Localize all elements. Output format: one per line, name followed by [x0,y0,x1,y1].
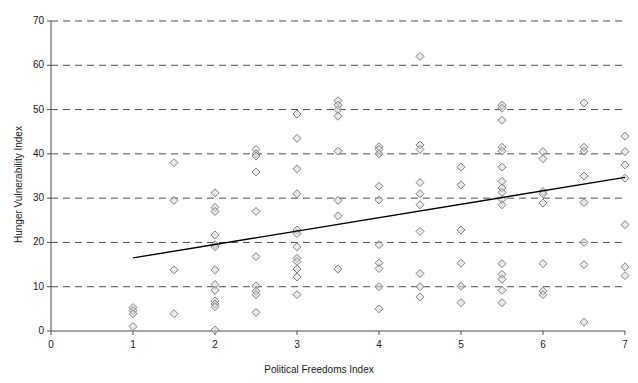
data-point-marker [498,163,506,171]
data-point-marker [416,190,424,198]
data-point-marker [457,299,465,307]
data-point-marker [129,323,137,331]
data-point-marker [211,286,219,294]
data-point-marker [416,179,424,187]
data-point-marker [293,291,301,299]
x-tick-label: 3 [294,340,300,350]
data-point-marker [293,265,301,273]
data-point-marker [416,201,424,209]
data-point-marker [457,163,465,171]
data-point-marker [252,253,260,261]
data-point-marker [293,273,301,281]
data-point-marker [580,261,588,269]
data-point-marker [539,155,547,163]
data-point-marker [621,148,629,156]
y-tick-label: 70 [20,16,44,26]
data-point-marker [252,308,260,316]
data-point-marker [211,326,219,334]
data-point-marker [416,269,424,277]
data-point-marker [580,318,588,326]
data-point-marker [457,259,465,267]
data-point-marker [498,260,506,268]
data-point-marker [375,265,383,273]
data-point-marker [539,199,547,207]
x-tick-label: 4 [376,340,382,350]
data-point-marker [498,116,506,124]
x-tick-label: 5 [458,340,464,350]
data-point-marker [621,221,629,229]
data-point-marker [211,266,219,274]
data-point-marker [375,305,383,313]
tickmarks-group [47,21,625,335]
data-point-marker [334,212,342,220]
data-point-marker [498,299,506,307]
data-point-marker [621,132,629,140]
data-point-marker [416,52,424,60]
data-point-marker [293,110,301,118]
data-point-marker [416,227,424,235]
data-point-marker [293,165,301,173]
data-point-marker [375,283,383,291]
y-axis-title: Hunger Vulnerability Index [13,126,24,243]
data-point-marker [621,263,629,271]
data-point-marker [293,134,301,142]
data-point-marker [580,99,588,107]
data-point-marker [375,241,383,249]
data-point-marker [580,199,588,207]
y-tick-label: 10 [20,282,44,292]
data-point-marker [211,231,219,239]
x-tick-label: 2 [212,340,218,350]
data-point-marker [334,265,342,273]
data-point-marker [375,196,383,204]
data-point-marker [416,293,424,301]
data-point-marker [498,286,506,294]
data-point-marker [334,112,342,120]
data-point-marker [211,189,219,197]
data-point-marker [539,260,547,268]
data-point-marker [170,159,178,167]
scatter-chart: 010203040506070 01234567 Hunger Vulnerab… [0,0,638,383]
y-tick-label: 0 [20,326,44,336]
x-tick-label: 0 [48,340,54,350]
data-point-marker [457,282,465,290]
data-point-marker [170,310,178,318]
plot-area [0,0,638,383]
x-tick-label: 7 [622,340,628,350]
x-axis-title: Political Freedoms Index [0,364,638,375]
data-points-group [129,52,629,334]
data-point-marker [375,182,383,190]
y-tick-label: 50 [20,105,44,115]
data-point-marker [621,161,629,169]
axes-group [51,21,625,331]
data-point-marker [457,181,465,189]
data-point-marker [621,272,629,280]
y-tick-label: 60 [20,60,44,70]
data-point-marker [293,243,301,251]
data-point-marker [252,207,260,215]
data-point-marker [416,283,424,291]
data-point-marker [498,201,506,209]
data-point-marker [252,168,260,176]
data-point-marker [334,196,342,204]
x-tick-label: 1 [130,340,136,350]
data-point-marker [170,196,178,204]
data-point-marker [580,238,588,246]
data-point-marker [170,266,178,274]
data-point-marker [498,275,506,283]
x-tick-label: 6 [540,340,546,350]
data-point-marker [457,226,465,234]
data-point-marker [580,172,588,180]
data-point-marker [293,190,301,198]
